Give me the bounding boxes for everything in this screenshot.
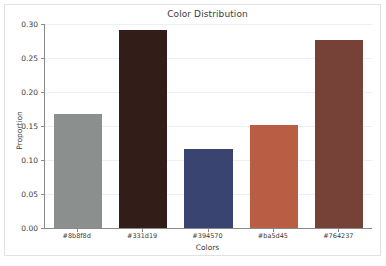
y-tick-label: 0.25 bbox=[0, 54, 38, 63]
chart-figure: Color Distribution 0.000.050.100.150.200… bbox=[0, 0, 386, 266]
y-tick-label: 0.30 bbox=[0, 20, 38, 29]
plot-area bbox=[44, 24, 372, 229]
x-tick-mark bbox=[142, 229, 143, 232]
x-tick-label: #ba5d45 bbox=[258, 232, 288, 240]
x-tick-label: #331d19 bbox=[127, 232, 157, 240]
bar[interactable] bbox=[184, 149, 232, 228]
x-tick-mark bbox=[273, 229, 274, 232]
x-tick-mark bbox=[77, 229, 78, 232]
bar[interactable] bbox=[250, 125, 298, 228]
bar[interactable] bbox=[54, 114, 102, 228]
bar-series bbox=[45, 24, 372, 228]
y-tick-label: 0.00 bbox=[0, 224, 38, 233]
x-tick-label: #764237 bbox=[323, 232, 353, 240]
x-tick-label: #394570 bbox=[192, 232, 222, 240]
x-tick-mark bbox=[338, 229, 339, 232]
chart-title: Color Distribution bbox=[44, 9, 371, 19]
x-axis-label: Colors bbox=[44, 243, 371, 252]
bar[interactable] bbox=[119, 30, 167, 228]
bar[interactable] bbox=[315, 40, 363, 228]
x-tick-label: #8b8f8d bbox=[62, 232, 90, 240]
y-axis-label: Proportion bbox=[15, 71, 24, 191]
x-tick-mark bbox=[208, 229, 209, 232]
y-tick-label: 0.05 bbox=[0, 190, 38, 199]
